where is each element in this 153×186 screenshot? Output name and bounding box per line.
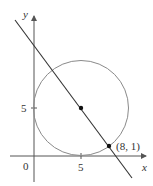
coordinate-diagram: y x 0 5 5 (8, 1) (0, 0, 153, 186)
point-label: (8, 1) (116, 140, 140, 153)
origin-label: 0 (23, 160, 29, 172)
x-tick-label: 5 (78, 161, 84, 173)
point-8-1 (107, 144, 111, 148)
center-point (79, 106, 83, 110)
x-axis-label: x (141, 161, 147, 173)
y-axis-label: y (22, 8, 28, 20)
line (15, 20, 132, 178)
y-tick-label: 5 (21, 102, 27, 114)
